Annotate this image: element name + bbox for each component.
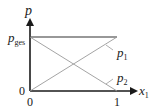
origin-y-label: 0 — [19, 84, 25, 98]
y-axis-label: p — [24, 3, 32, 18]
p2-label: p2 — [116, 70, 128, 87]
partial-pressure-diagram: p pges p1 p2 x1 0 0 1 — [0, 0, 157, 111]
x-end-label: 1 — [114, 95, 120, 109]
origin-x-label: 0 — [27, 95, 33, 109]
x-axis-label: x1 — [138, 83, 149, 100]
p1-label: p1 — [116, 45, 128, 62]
p1-leader — [106, 45, 113, 50]
pges-label: pges — [7, 30, 25, 47]
p2-leader — [106, 79, 113, 84]
